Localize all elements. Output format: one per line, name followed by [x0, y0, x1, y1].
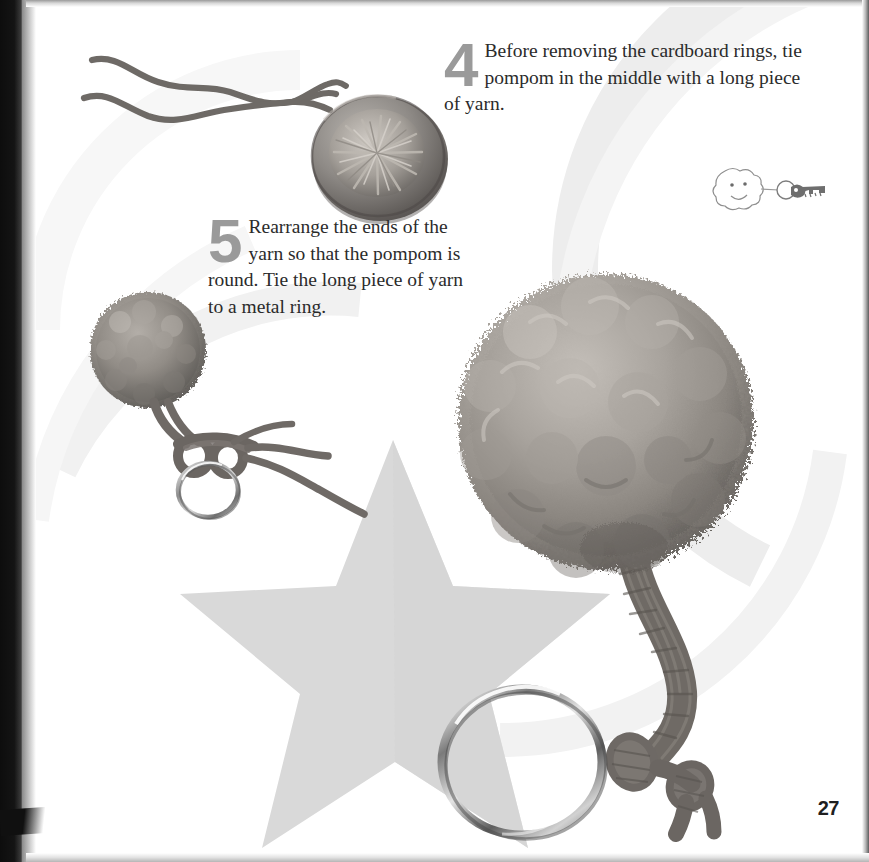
step-5-number: 5	[208, 216, 240, 267]
scan-edge-left-taper	[22, 0, 36, 862]
book-page: 4 Before removing the cardboard rings, t…	[0, 0, 869, 862]
photo-large-pompom-keychain	[410, 262, 830, 842]
step-5-text: Rearrange the ends of the yarn so that t…	[208, 216, 463, 317]
step-4-text: Before removing the cardboard rings, tie…	[444, 40, 802, 114]
pompom-keychain-doodle-icon	[705, 163, 830, 218]
page-number: 27	[818, 797, 839, 820]
photo-pompom-in-cardboard-rings	[78, 40, 458, 230]
step-4-number: 4	[444, 40, 476, 91]
scan-corner-bottom-left	[0, 806, 61, 836]
scan-edge-top	[26, 0, 869, 7]
scan-edge-right	[862, 0, 869, 862]
scan-edge-bottom	[26, 853, 869, 862]
step-4: 4 Before removing the cardboard rings, t…	[444, 38, 812, 118]
step-5: 5 Rearrange the ends of the yarn so that…	[208, 214, 478, 321]
